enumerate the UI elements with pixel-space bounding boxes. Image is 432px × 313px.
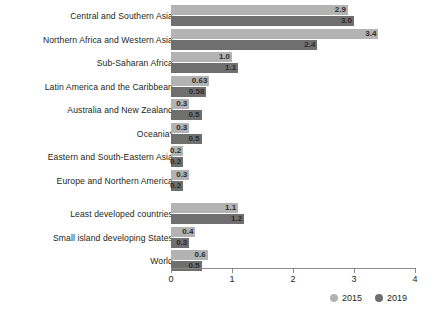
category-label: Central and Southern Asia	[1, 4, 173, 28]
category-label: World	[1, 249, 173, 273]
bar-group: 3.42.4	[171, 28, 432, 52]
legend-item-2019[interactable]: 2019	[375, 293, 407, 303]
x-axis-tick-label: 2	[278, 274, 308, 284]
x-axis-tick	[171, 268, 172, 273]
bar-value-label: 1.1	[223, 63, 238, 73]
bar-value-label: 2.4	[302, 40, 317, 50]
x-axis-tick-label: 1	[217, 274, 247, 284]
bar-group: 1.01.1	[171, 51, 432, 75]
bar-value-label: 0.5	[186, 134, 201, 144]
category-label: Oceania*	[1, 122, 173, 146]
x-axis-tick	[232, 268, 233, 273]
bar-group: 0.30.5	[171, 98, 432, 122]
bar-value-label: 0.3	[174, 99, 189, 109]
legend-item-2015[interactable]: 2015	[330, 293, 362, 303]
chart-row: World0.60.5	[0, 249, 432, 273]
bar-value-label: 0.6	[192, 250, 207, 260]
bar-group: 0.60.5	[171, 249, 432, 273]
bar-group: 0.30.5	[171, 122, 432, 146]
bar-value-label: 1.2	[229, 214, 244, 224]
category-label: Australia and New Zealand	[1, 98, 173, 122]
bar-value-label: 0.63	[190, 76, 210, 86]
x-axis-tick	[415, 268, 416, 273]
chart-row: Least developed countries1.11.2	[0, 202, 432, 226]
legend-swatch-icon	[330, 294, 338, 302]
legend-label: 2015	[342, 293, 362, 303]
bar-value-label: 0.2	[168, 181, 183, 191]
chart-row: Australia and New Zealand0.30.5	[0, 98, 432, 122]
bar-2019	[171, 16, 354, 26]
x-axis-tick	[293, 268, 294, 273]
bar-value-label: 0.5	[186, 110, 201, 120]
chart-row: Eastern and South-Eastern Asia0.20.2	[0, 145, 432, 169]
bar-value-label: 0.3	[174, 123, 189, 133]
chart-row: Central and Southern Asia2.93.0	[0, 4, 432, 28]
category-label: Northern Africa and Western Asia	[1, 28, 173, 52]
bar-value-label: 3.4	[363, 29, 378, 39]
bar-value-label: 0.5	[186, 261, 201, 271]
bar-group: 0.630.58	[171, 75, 432, 99]
bar-value-label: 1.0	[217, 52, 232, 62]
legend-swatch-icon	[375, 294, 383, 302]
x-axis-tick-label: 4	[400, 274, 430, 284]
bar-2015	[171, 5, 348, 15]
category-label: Sub-Saharan Africa	[1, 51, 173, 75]
bar-value-label: 0.3	[174, 238, 189, 248]
category-label: Small island developing States	[1, 226, 173, 250]
bar-group: 2.93.0	[171, 4, 432, 28]
bar-2015	[171, 29, 378, 39]
chart-row: Northern Africa and Western Asia3.42.4	[0, 28, 432, 52]
chart-row: Small island developing States0.40.3	[0, 226, 432, 250]
bar-value-label: 1.1	[223, 203, 238, 213]
bar-group: 0.40.3	[171, 226, 432, 250]
bar-2019	[171, 40, 317, 50]
chart-legend: 20152019	[330, 292, 407, 306]
legend-label: 2019	[387, 293, 407, 303]
bar-value-label: 0.4	[180, 227, 195, 237]
bar-group: 0.20.2	[171, 145, 432, 169]
bar-value-label: 0.2	[168, 146, 183, 156]
chart-row: Europe and Northern America0.30.2	[0, 169, 432, 193]
bar-value-label: 0.3	[174, 170, 189, 180]
chart-row: Latin America and the Caribbean0.630.58	[0, 75, 432, 99]
category-label: Least developed countries	[1, 202, 173, 226]
x-axis-tick-label: 3	[339, 274, 369, 284]
bar-value-label: 3.0	[339, 16, 354, 26]
bar-value-label: 0.2	[168, 157, 183, 167]
category-label: Eastern and South-Eastern Asia	[1, 145, 173, 169]
bar-value-label: 0.58	[187, 87, 207, 97]
x-axis-tick	[354, 268, 355, 273]
bar-chart: Central and Southern Asia2.93.0Northern …	[0, 0, 432, 313]
category-label: Latin America and the Caribbean	[1, 75, 173, 99]
bar-group: 0.30.2	[171, 169, 432, 193]
bar-group: 1.11.2	[171, 202, 432, 226]
x-axis-tick-label: 0	[156, 274, 186, 284]
category-label: Europe and Northern America	[1, 169, 173, 193]
chart-row: Oceania*0.30.5	[0, 122, 432, 146]
chart-row: Sub-Saharan Africa1.01.1	[0, 51, 432, 75]
bar-value-label: 2.9	[333, 5, 348, 15]
